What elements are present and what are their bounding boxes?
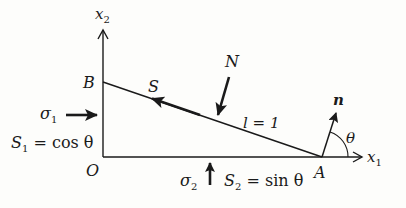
angle-label: θ (346, 129, 355, 147)
unit-normal-arrow (322, 113, 336, 157)
x1-axis-label: x1 (367, 148, 382, 168)
point-a-label: A (312, 163, 326, 182)
point-b-label: B (82, 73, 95, 92)
x2-axis-label: x2 (95, 5, 110, 25)
stress-triangle-diagram: x2 x1 B O A S N l = 1 n θ σ1 S1 = cos θ … (0, 0, 406, 208)
normal-force-label: N (224, 52, 240, 71)
shear-force-label: S (148, 77, 159, 96)
origin-label: O (86, 161, 99, 180)
length-label: l = 1 (243, 114, 279, 132)
s2-equation: S2 = sin θ (224, 171, 303, 192)
sigma1-label: σ1 (40, 104, 57, 125)
sigma2-label: σ2 (180, 171, 197, 192)
hypotenuse-line (103, 82, 322, 157)
unit-normal-label: n (333, 91, 344, 109)
s1-equation: S1 = cos θ (11, 133, 93, 154)
shear-force-arrow (152, 99, 200, 116)
normal-force-arrow (218, 77, 229, 115)
